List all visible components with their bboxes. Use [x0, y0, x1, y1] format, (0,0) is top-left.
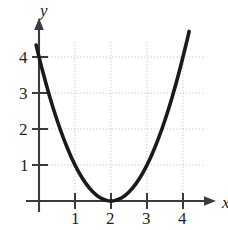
x-tick-label-4: 4	[178, 210, 187, 227]
x-tick-label-3: 3	[142, 210, 151, 227]
x-axis-label: x	[222, 194, 228, 211]
y-axis-label: y	[40, 2, 48, 19]
y-tick-label-3: 3	[19, 85, 28, 102]
plot-canvas	[0, 0, 228, 230]
y-tick-label-2: 2	[19, 121, 28, 138]
y-tick-label-4: 4	[19, 49, 28, 66]
x-tick-label-2: 2	[106, 210, 115, 227]
y-tick-label-1: 1	[20, 157, 29, 174]
parabola-graph-figure: 4 3 2 1 1 2 3 4 y x	[0, 0, 228, 230]
x-axis-arrow-head-icon	[204, 196, 216, 206]
x-tick-label-1: 1	[71, 210, 80, 227]
